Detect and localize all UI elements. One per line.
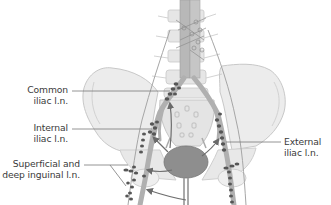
label-external-iliac-line2: iliac l.n.	[284, 147, 331, 158]
label-internal-iliac-line2: iliac l.n.	[18, 133, 68, 144]
label-common-iliac: Common iliac l.n.	[18, 84, 68, 106]
label-superficial-deep-inguinal: Superficial and deep inguinal l.n.	[0, 158, 80, 180]
label-external-iliac-line1: External	[284, 136, 331, 147]
label-internal-iliac-line1: Internal	[18, 122, 68, 133]
label-inguinal-line2: deep inguinal l.n.	[0, 169, 80, 180]
label-inguinal-line1: Superficial and	[0, 158, 80, 169]
label-common-iliac-line2: iliac l.n.	[18, 95, 68, 106]
label-external-iliac: External iliac l.n.	[284, 136, 331, 158]
label-internal-iliac: Internal iliac l.n.	[18, 122, 68, 144]
label-common-iliac-line1: Common	[18, 84, 68, 95]
